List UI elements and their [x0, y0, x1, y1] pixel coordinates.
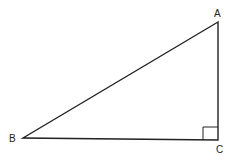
triangle-abc: [23, 22, 218, 140]
vertex-label-c: C: [216, 144, 223, 155]
vertex-label-a: A: [214, 8, 221, 19]
right-angle-marker: [203, 127, 218, 140]
triangle-diagram: A B C: [0, 0, 237, 161]
vertex-label-b: B: [9, 133, 16, 144]
